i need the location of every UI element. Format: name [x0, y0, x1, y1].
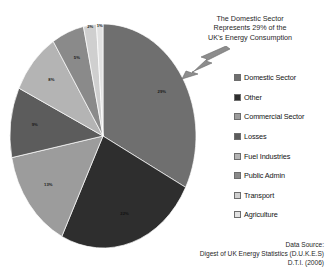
legend-swatch-losses — [234, 133, 241, 140]
pie-value-label-domestic-sector: 29% — [158, 89, 167, 94]
callout-text: The Domestic Sector Represents 29% of th… — [176, 14, 324, 42]
legend-label-fuel-industries: Fuel Industries — [244, 152, 290, 161]
legend-item-domestic-sector[interactable]: Domestic Sector — [234, 68, 328, 88]
legend-swatch-agriculture — [234, 211, 241, 218]
legend-item-public-admin[interactable]: Public Admin — [234, 166, 328, 186]
chart-canvas: 29%22%13%9%8%5%2%1% The Domestic Sector … — [0, 0, 328, 273]
legend-label-domestic-sector: Domestic Sector — [244, 73, 296, 82]
pie-value-label-commercial-sector: 13% — [44, 182, 53, 187]
source-line-3: D.T.I. (2006) — [200, 258, 324, 267]
legend-item-transport[interactable]: Transport — [234, 186, 328, 206]
legend-item-commercial-sector[interactable]: Commercial Sector — [234, 107, 328, 127]
legend-label-losses: Losses — [244, 132, 267, 141]
pie-value-label-fuel-industries: 8% — [48, 77, 54, 82]
pie-chart: 29%22%13%9%8%5%2%1% — [8, 22, 198, 250]
callout-line-2: Represents 29% of the — [176, 23, 324, 32]
legend-swatch-commercial-sector — [234, 113, 241, 120]
legend-item-losses[interactable]: Losses — [234, 127, 328, 147]
legend-item-agriculture[interactable]: Agriculture — [234, 205, 328, 225]
legend-label-transport: Transport — [244, 191, 274, 200]
legend-label-commercial-sector: Commercial Sector — [244, 112, 304, 121]
source-line-2: Digest of UK Energy Statistics (D.U.K.E.… — [200, 249, 324, 258]
pie-slices — [10, 24, 196, 248]
pie-value-label-agriculture: 1% — [97, 23, 103, 28]
legend: Domestic Sector Other Commercial Sector … — [234, 68, 328, 225]
legend-item-other[interactable]: Other — [234, 88, 328, 108]
callout-arrow-icon — [176, 46, 232, 80]
pie-value-label-public-admin: 5% — [74, 55, 80, 60]
callout-line-3: UK's Energy Consumption — [176, 33, 324, 42]
pie-value-label-losses: 9% — [32, 122, 38, 127]
pie-value-label-other: 22% — [120, 211, 129, 216]
legend-label-agriculture: Agriculture — [244, 210, 278, 219]
pie-value-label-transport: 2% — [87, 24, 93, 29]
legend-swatch-fuel-industries — [234, 153, 241, 160]
callout-line-1: The Domestic Sector — [176, 14, 324, 23]
legend-swatch-public-admin — [234, 172, 241, 179]
pie-svg: 29%22%13%9%8%5%2%1% — [8, 22, 198, 250]
legend-swatch-transport — [234, 192, 241, 199]
legend-swatch-other — [234, 94, 241, 101]
source-line-1: Data Source: — [200, 240, 324, 249]
legend-label-public-admin: Public Admin — [244, 171, 285, 180]
legend-swatch-domestic-sector — [234, 74, 241, 81]
legend-label-other: Other — [244, 93, 262, 102]
legend-item-fuel-industries[interactable]: Fuel Industries — [234, 146, 328, 166]
data-source: Data Source: Digest of UK Energy Statist… — [200, 240, 324, 267]
